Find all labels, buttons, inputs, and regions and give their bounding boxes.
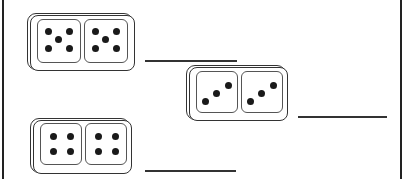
domino-4-4 [30, 118, 132, 174]
domino-3-3 [186, 65, 288, 121]
domino-face-four [85, 123, 127, 165]
domino-face-five [84, 19, 128, 63]
domino-face-three [241, 71, 283, 113]
worksheet-right-border [400, 0, 402, 179]
domino-face-four [40, 123, 82, 165]
worksheet-left-border [2, 0, 4, 179]
domino-face-three [196, 71, 238, 113]
answer-line-3[interactable] [145, 170, 236, 172]
answer-line-1[interactable] [145, 60, 237, 62]
answer-line-2[interactable] [298, 116, 387, 118]
domino-face-five [37, 19, 81, 63]
domino-5-5 [27, 13, 135, 71]
